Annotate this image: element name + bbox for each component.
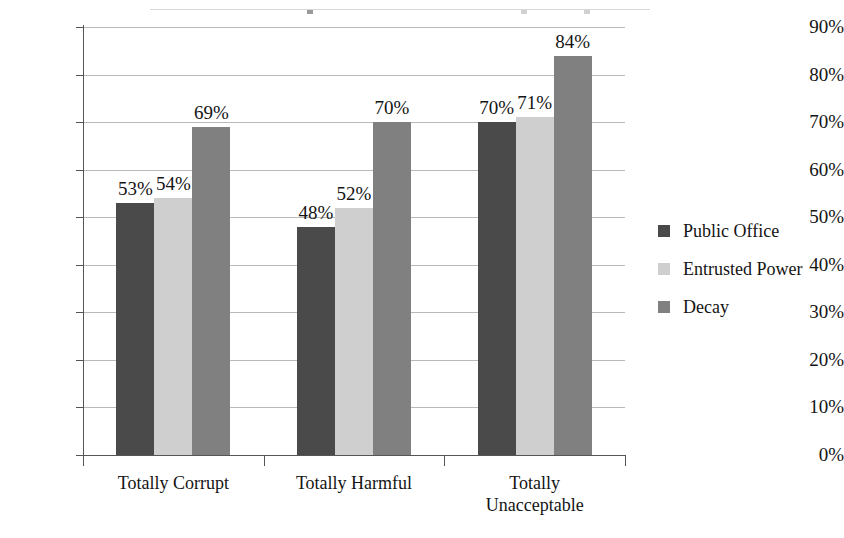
bar-value-label: 69% (186, 103, 236, 122)
y-axis-tick-label: 60% (780, 160, 844, 179)
scan-artifact-fleck (584, 10, 590, 14)
scan-artifact-fleck (307, 10, 313, 14)
legend-swatch-icon (658, 263, 670, 275)
x-axis-tick (625, 456, 626, 466)
legend-label: Public Office (683, 222, 779, 240)
y-axis-tick-label: 0% (780, 445, 844, 464)
bar-value-label: 48% (291, 203, 341, 222)
legend-item: Entrusted Power (658, 250, 802, 288)
legend-label: Entrusted Power (683, 260, 802, 278)
x-axis-tick (264, 456, 265, 466)
bar-value-label: 52% (329, 184, 379, 203)
y-axis-tick-label: 80% (780, 65, 844, 84)
bar (373, 122, 411, 455)
x-axis-category-label: Totally Unacceptable (424, 472, 645, 516)
bar-value-label: 54% (148, 174, 198, 193)
gridline (83, 27, 625, 28)
bar (154, 198, 192, 455)
scan-artifact-rule (150, 9, 650, 10)
scan-artifact-fleck (521, 10, 527, 14)
y-axis-tick-label: 10% (780, 397, 844, 416)
legend-swatch-icon (658, 301, 670, 313)
y-axis-tick-label: 70% (780, 112, 844, 131)
y-axis-tick-label: 20% (780, 350, 844, 369)
bar-chart: 90%80%70%60%50%40%30%20%10%0% 53%54%69%4… (0, 0, 844, 538)
bar (516, 117, 554, 455)
bar-value-label: 70% (367, 98, 417, 117)
bar-value-label: 84% (548, 32, 598, 51)
bar (554, 56, 592, 455)
legend-label: Decay (683, 298, 729, 316)
x-axis-line (83, 455, 626, 456)
legend-item: Decay (658, 288, 802, 326)
y-axis-line (83, 25, 84, 457)
chart-legend: Public OfficeEntrusted PowerDecay (658, 212, 802, 326)
bar (335, 208, 373, 455)
bar-value-label: 71% (510, 93, 560, 112)
bar (116, 203, 154, 455)
gridline (83, 75, 625, 76)
x-axis-tick (83, 456, 84, 466)
x-axis-tick (444, 456, 445, 466)
plot-area: 53%54%69%48%52%70%70%71%84% (83, 27, 625, 455)
bar (297, 227, 335, 455)
y-axis-tick-label: 90% (780, 17, 844, 36)
bar (192, 127, 230, 455)
legend-item: Public Office (658, 212, 802, 250)
legend-swatch-icon (658, 225, 670, 237)
bar (478, 122, 516, 455)
